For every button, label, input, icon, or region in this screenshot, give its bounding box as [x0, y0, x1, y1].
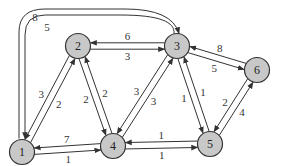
edge-3-1 — [25, 15, 174, 139]
edge-label-6-5: 2 — [222, 96, 228, 108]
node-2: 2 — [66, 34, 91, 59]
edge-label-6-3: 8 — [217, 42, 223, 54]
node-4: 4 — [101, 134, 126, 159]
edge-label-1-2: 2 — [56, 98, 62, 110]
edge-label-5-3: 1 — [200, 86, 206, 98]
edge-label-3-6: 5 — [211, 62, 217, 74]
node-label: 2 — [75, 39, 81, 53]
edge-4-2 — [85, 57, 112, 133]
edges — [19, 9, 253, 154]
edge-6-5 — [214, 79, 248, 132]
edge-label-3-5: 1 — [181, 92, 187, 104]
edge-label-4-1: 7 — [64, 133, 70, 145]
node-3: 3 — [165, 34, 190, 59]
edge-label-4-5: 1 — [159, 149, 165, 161]
edge-label-3-1: 5 — [44, 21, 50, 33]
edge-label-2-1: 3 — [38, 88, 44, 100]
edge-5-4 — [125, 141, 197, 142]
node-label: 5 — [207, 137, 213, 151]
edge-3-4 — [117, 55, 168, 134]
edge-label-4-3: 3 — [151, 95, 157, 107]
edge-label-2-3: 3 — [125, 50, 131, 62]
node-5: 5 — [198, 132, 223, 157]
edge-5-6 — [219, 82, 253, 135]
edge-label-3-2: 6 — [125, 30, 131, 42]
edge-label-3-4: 3 — [134, 85, 140, 97]
edge-label-1-4: 1 — [65, 153, 71, 165]
edge-label-4-2: 2 — [102, 87, 108, 99]
node-label: 4 — [110, 139, 116, 153]
edge-label-5-6: 4 — [239, 106, 245, 118]
edge-1-2 — [31, 59, 75, 143]
edge-label-1-3: 8 — [32, 11, 38, 23]
edge-label-2-4: 2 — [83, 93, 89, 105]
node-6: 6 — [245, 58, 270, 83]
edge-4-3 — [122, 58, 173, 137]
node-label: 3 — [174, 39, 180, 53]
graph-diagram: 23362233171111584258 123456 — [0, 0, 289, 166]
node-label: 1 — [19, 145, 25, 159]
edge-label-5-4: 1 — [159, 129, 165, 141]
node-1: 1 — [10, 140, 35, 165]
node-label: 6 — [254, 63, 260, 77]
edge-2-1 — [25, 56, 69, 140]
